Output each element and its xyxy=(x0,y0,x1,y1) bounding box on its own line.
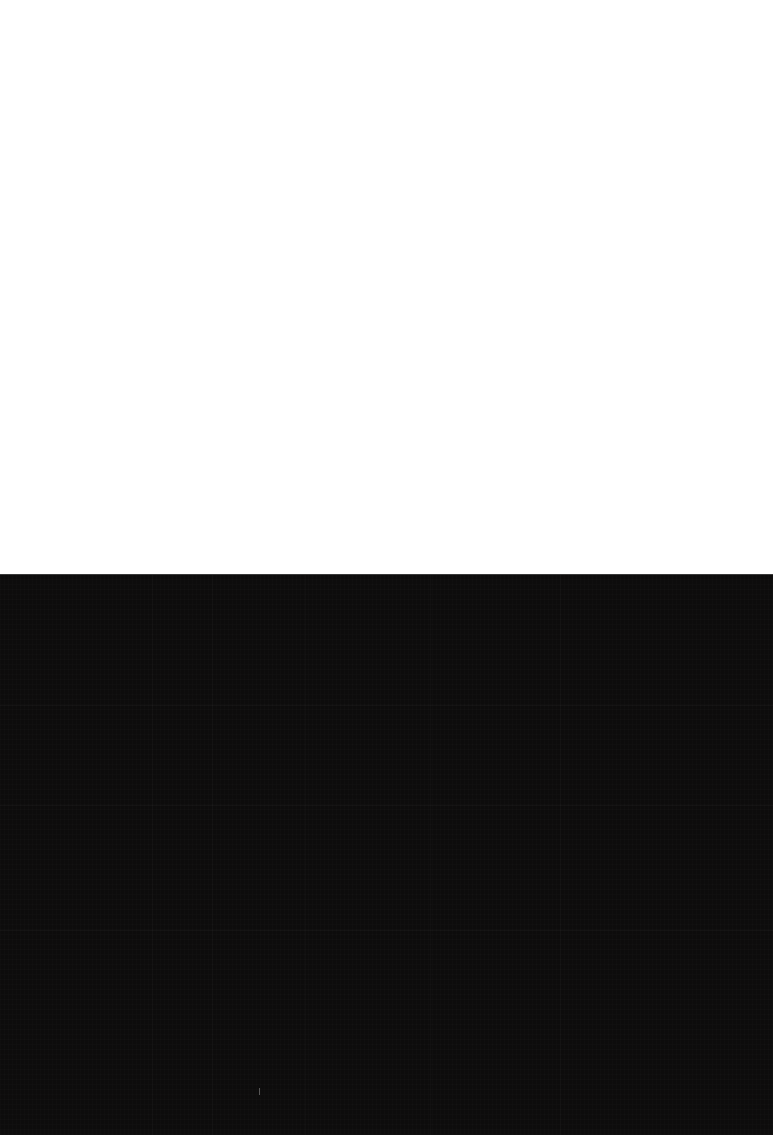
vertical-band-artifact xyxy=(430,575,431,1135)
horizontal-band-artifact xyxy=(0,930,773,931)
vertical-band-artifact xyxy=(212,575,213,1135)
vertical-band-artifact xyxy=(305,575,306,1135)
screen-capture xyxy=(0,0,773,1135)
vertical-band-artifact xyxy=(152,575,153,1135)
blank-dark-pane xyxy=(0,575,773,1135)
compression-noise-texture xyxy=(0,575,773,1135)
horizontal-band-artifact xyxy=(0,805,773,806)
horizontal-band-artifact xyxy=(0,705,773,706)
blank-white-pane xyxy=(0,0,773,575)
vertical-band-artifact xyxy=(560,575,561,1135)
bright-speck-artifact xyxy=(259,1088,260,1095)
